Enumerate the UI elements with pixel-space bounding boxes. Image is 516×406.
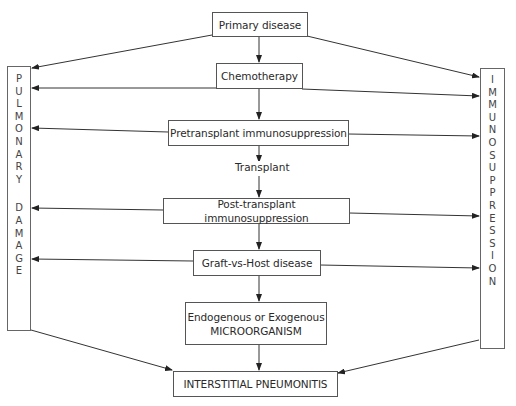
primary-disease-node: Primary disease bbox=[212, 12, 308, 37]
posttransplant-node: Post-transplant immunosuppression bbox=[163, 198, 350, 224]
microorganism-label-line1: Endogenous or Exogenous bbox=[187, 310, 324, 324]
transplant-edge-label: Transplant bbox=[234, 161, 291, 173]
pretransplant-node: Pretransplant immunosuppression bbox=[168, 120, 349, 146]
gvhd-node: Graft-vs-Host disease bbox=[193, 250, 321, 276]
posttransplant-label: Post-transplant immunosuppression bbox=[164, 197, 349, 225]
pulmonary-damage-node: P U L M O N A R Y D A M A G E bbox=[7, 66, 31, 331]
immunosuppression-node: I M M U N O S U P P R E S S I O N bbox=[480, 68, 505, 349]
gvhd-label: Graft-vs-Host disease bbox=[202, 256, 313, 270]
microorganism-label-line2: MICROORGANISM bbox=[210, 324, 301, 338]
primary-disease-label: Primary disease bbox=[219, 18, 301, 32]
microorganism-node: Endogenous or Exogenous MICROORGANISM bbox=[185, 302, 327, 345]
chemotherapy-node: Chemotherapy bbox=[216, 63, 303, 89]
pneumonitis-label: INTERSTITIAL PNEUMONITIS bbox=[184, 377, 328, 391]
pretransplant-label: Pretransplant immunosuppression bbox=[170, 126, 347, 140]
pneumonitis-node: INTERSTITIAL PNEUMONITIS bbox=[173, 371, 338, 397]
chemotherapy-label: Chemotherapy bbox=[221, 69, 298, 83]
